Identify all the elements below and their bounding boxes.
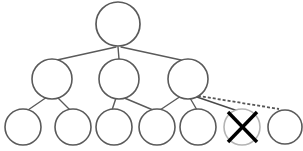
edge-node2-to-leaf3: [112, 98, 116, 110]
tree-diagram-canvas: [0, 0, 303, 151]
edge-node3-to-leaf7-dashed: [193, 95, 279, 109]
tree-diagram: [0, 0, 303, 151]
edge-node1-to-leaf2: [57, 97, 70, 110]
leaf-node-7: [268, 110, 302, 144]
edge-node1-to-leaf1: [28, 97, 47, 110]
branch-node-3: [168, 59, 208, 99]
leaf-node-1: [5, 109, 41, 145]
edge-node3-to-leaf4: [160, 96, 181, 110]
branch-node-2: [99, 59, 139, 99]
leaf-node-4: [139, 109, 175, 145]
leaf-node-2: [55, 109, 91, 145]
edge-node3-to-leaf5: [190, 98, 197, 110]
leaf-node-3: [96, 109, 132, 145]
edge-root-to-node3: [121, 47, 181, 60]
edge-root-to-node2: [118, 47, 119, 59]
root-node: [96, 2, 140, 46]
edge-root-to-node1: [57, 47, 116, 60]
edge-node2-to-leaf4: [122, 97, 153, 110]
leaf-node-5: [180, 109, 216, 145]
branch-node-1: [32, 59, 72, 99]
